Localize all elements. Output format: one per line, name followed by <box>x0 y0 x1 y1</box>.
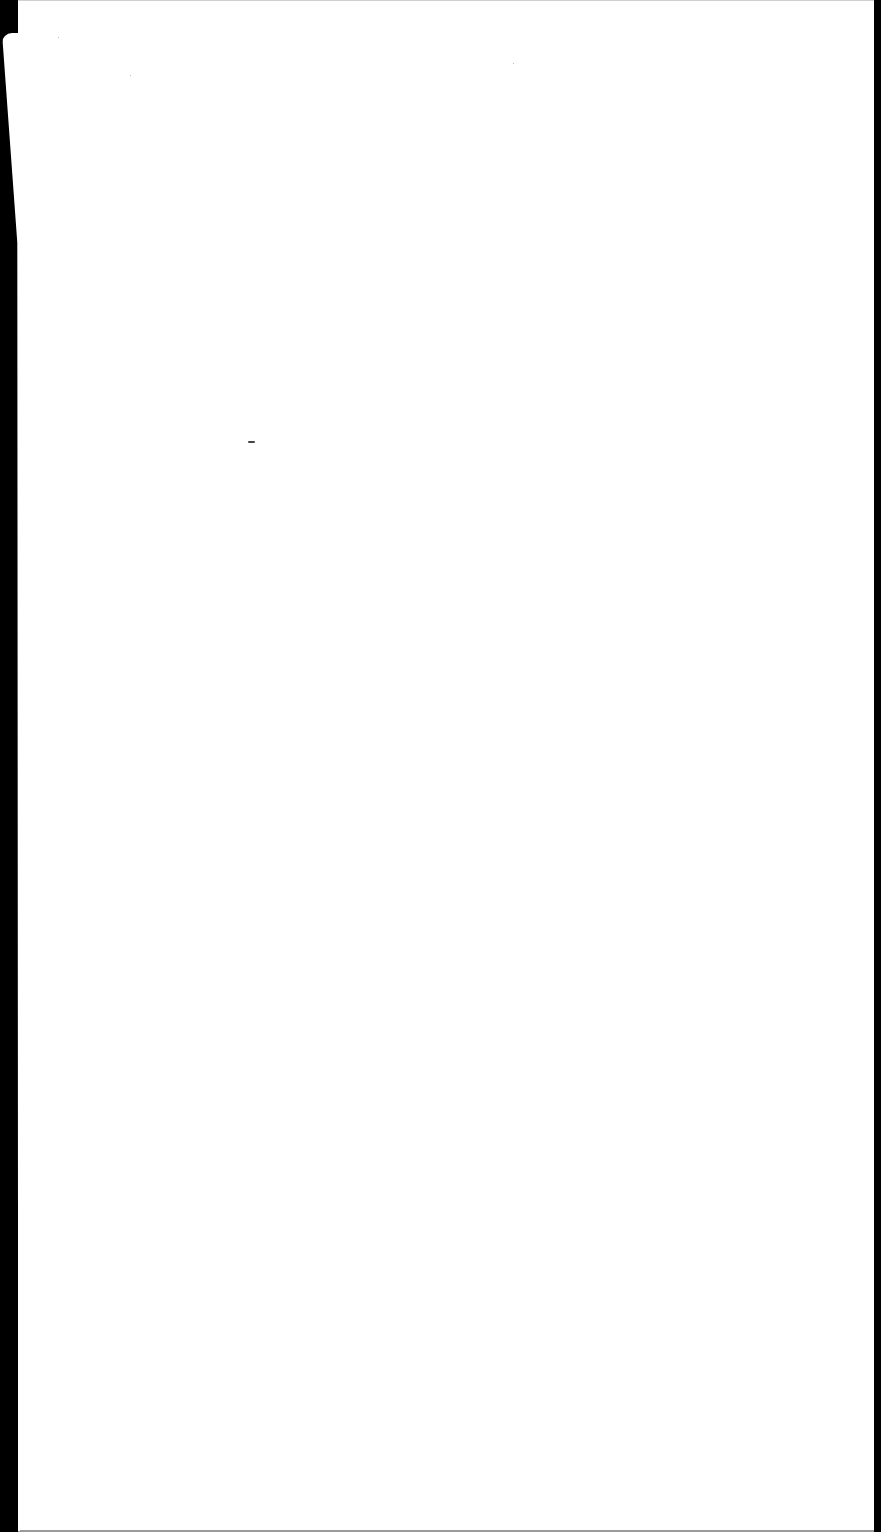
scan-border-right <box>874 0 881 1531</box>
scan-artifact-speck <box>248 441 255 443</box>
blank-page <box>18 0 874 1532</box>
scan-artifact-dot <box>130 75 131 76</box>
scan-artifact-dot <box>513 63 514 64</box>
scan-artifact-dot <box>58 37 59 38</box>
